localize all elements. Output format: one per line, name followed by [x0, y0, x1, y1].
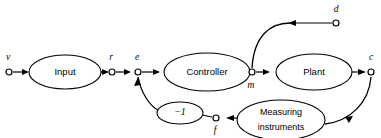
block-gain[interactable]: −1	[157, 102, 203, 124]
feedback-gain-to-error-group	[134, 77, 158, 110]
node-r-label: r	[109, 52, 113, 62]
block-controller[interactable]: Controller	[164, 53, 250, 91]
curve-gain-to-e	[138, 77, 158, 110]
node-m-label: m	[248, 80, 255, 90]
signal-node-c[interactable]: c	[368, 52, 374, 75]
node-m-circle	[249, 69, 255, 75]
arrowhead-into-input	[22, 69, 29, 75]
plant-label: Plant	[303, 66, 325, 77]
block-measuring-instruments[interactable]: Measuring instruments	[237, 100, 325, 138]
line-f-to-gain	[202, 115, 212, 117]
input-label: Input	[54, 66, 75, 77]
node-d-label: d	[334, 4, 339, 14]
signal-node-e[interactable]: e	[135, 52, 141, 75]
arrowhead-into-f	[226, 115, 234, 121]
block-input[interactable]: Input	[29, 55, 101, 89]
node-r-circle	[109, 69, 115, 75]
arrowhead-into-c	[358, 69, 366, 75]
measuring-label-line1: Measuring	[260, 107, 302, 117]
arrowhead-into-measuring	[345, 116, 353, 123]
arrowhead-into-plant	[263, 69, 270, 75]
arrowhead-into-controller	[153, 69, 160, 75]
node-v-circle	[6, 69, 12, 75]
node-f-circle	[213, 115, 219, 121]
signal-node-v[interactable]: v	[6, 52, 12, 75]
measuring-label-line2: instruments	[258, 122, 305, 132]
control-system-diagram: Input Controller Plant −1 Measuring inst…	[0, 0, 381, 138]
arrowhead-into-e-feedback	[134, 77, 141, 86]
arrowhead-into-e	[124, 69, 131, 75]
gain-label: −1	[174, 106, 186, 117]
arrowhead-into-r	[102, 69, 109, 75]
node-f-label: f	[214, 125, 218, 135]
node-d-circle	[333, 20, 339, 26]
signal-node-f[interactable]: f	[213, 115, 219, 135]
block-plant[interactable]: Plant	[276, 54, 352, 90]
node-e-circle	[135, 69, 141, 75]
signal-node-r[interactable]: r	[109, 52, 115, 75]
signal-node-m[interactable]: m	[248, 69, 255, 90]
signal-node-d[interactable]: d	[333, 4, 339, 26]
controller-label: Controller	[186, 66, 227, 77]
node-c-circle	[368, 69, 374, 75]
node-c-label: c	[369, 52, 374, 62]
diagram-canvas: Input Controller Plant −1 Measuring inst…	[0, 0, 381, 138]
node-v-label: v	[6, 52, 11, 62]
node-e-label: e	[135, 52, 139, 62]
